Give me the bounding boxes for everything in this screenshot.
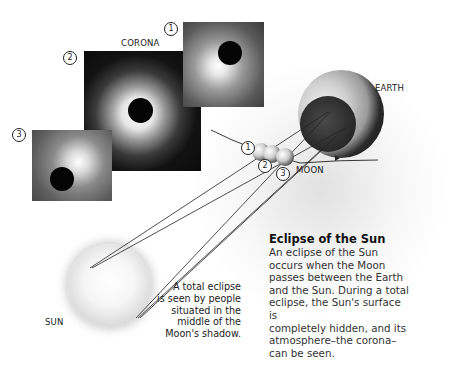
caption-line: An eclipse of the Sun (269, 246, 409, 259)
note-line: middle of the (148, 316, 241, 328)
moon-number-1: 1 (241, 141, 255, 155)
caption-title: Eclipse of the Sun (269, 233, 409, 246)
note-line: A total eclipse (148, 281, 241, 293)
caption-line: completely hidden, and its (269, 322, 409, 335)
note-line: situated in the (148, 305, 241, 317)
moon-number-2: 2 (258, 159, 272, 173)
moon-number-3: 3 (276, 167, 290, 181)
caption-line: and the Sun. During a total (269, 284, 409, 297)
caption-line: passes between the Earth (269, 271, 409, 284)
caption-line: atmosphere–the corona– (269, 334, 409, 347)
moon-position-3 (276, 148, 294, 166)
moon-label: MOON (296, 165, 324, 175)
note-line: Moon's shadow. (148, 328, 241, 340)
caption-line: can be seen. (269, 347, 409, 360)
note-line: is seen by people (148, 293, 241, 305)
orbit-arrow-icon (335, 155, 340, 161)
caption: Eclipse of the Sun An eclipse of the Sun… (269, 233, 409, 359)
total-eclipse-note: A total eclipse is seen by people situat… (148, 281, 241, 340)
moon-orbit (211, 130, 378, 163)
caption-line: occurs when the Moon (269, 259, 409, 272)
caption-line: eclipse, the Sun's surface is (269, 296, 409, 321)
